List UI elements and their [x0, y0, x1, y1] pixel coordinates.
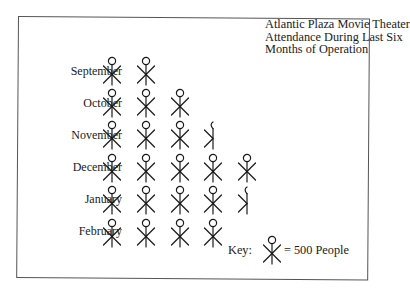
title-line-1: Atlantic Plaza Movie Theater — [265, 18, 410, 31]
person-icon — [136, 88, 156, 118]
chart-title: Atlantic Plaza Movie Theater Attendance … — [265, 18, 410, 56]
person-icon — [203, 185, 223, 215]
person-icon — [102, 88, 122, 118]
person-icon — [102, 218, 122, 248]
person-icon — [136, 185, 156, 215]
person-icon — [102, 120, 122, 150]
half-person-icon — [237, 185, 257, 215]
chart-key: Key: = 500 People — [228, 235, 349, 265]
person-icon — [136, 218, 156, 248]
person-icon — [262, 235, 282, 265]
title-line-3: Months of Operation — [265, 43, 410, 56]
half-person-icon — [203, 120, 223, 150]
person-icon — [203, 153, 223, 183]
person-icon — [170, 218, 190, 248]
person-icon — [136, 153, 156, 183]
person-icon — [203, 218, 223, 248]
person-icon — [170, 185, 190, 215]
person-icon — [237, 153, 257, 183]
person-icon — [102, 185, 122, 215]
key-value: = 500 People — [284, 243, 349, 258]
person-icon — [102, 56, 122, 86]
key-label: Key: — [228, 243, 252, 258]
person-icon — [170, 88, 190, 118]
person-icon — [170, 153, 190, 183]
person-icon — [136, 56, 156, 86]
person-icon — [170, 120, 190, 150]
person-icon — [136, 120, 156, 150]
person-icon — [102, 153, 122, 183]
